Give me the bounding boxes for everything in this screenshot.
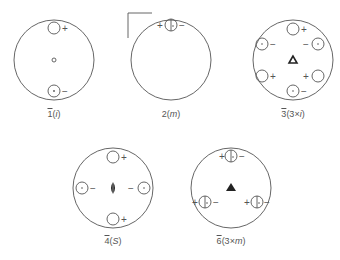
svg-text:−: −: [90, 183, 96, 194]
svg-text:−: −: [179, 20, 185, 31]
svg-text:+: +: [121, 152, 127, 163]
svg-text:+: +: [219, 151, 225, 162]
projection-circle-1bar: [14, 20, 94, 100]
open-triangle-icon: [289, 56, 297, 63]
inversion-center-icon: [52, 58, 56, 62]
svg-text:+: +: [121, 214, 127, 225]
filled-triangle-icon: [226, 183, 236, 191]
svg-text:+: +: [303, 71, 309, 82]
svg-text:−: −: [239, 151, 245, 162]
svg-text:+: +: [192, 197, 198, 208]
label-6bar: 6(3×m): [191, 236, 271, 246]
svg-text:+: +: [62, 23, 68, 34]
svg-text:−: −: [303, 39, 309, 50]
svg-text:−: −: [128, 183, 134, 194]
pole-plus-open: [48, 22, 60, 34]
label-4bar: 4(S): [73, 236, 153, 246]
svg-text:−: −: [62, 86, 68, 97]
stereogram-figure: + − + − + − − + + − + + − − + − + − + −: [0, 0, 340, 260]
label-3bar: 3(3×i): [253, 109, 333, 119]
svg-text:−: −: [270, 39, 276, 50]
svg-text:+: +: [244, 197, 250, 208]
svg-text:−: −: [213, 197, 219, 208]
svg-text:+: +: [157, 20, 163, 31]
svg-text:+: +: [270, 71, 276, 82]
label-1bar: 1(i): [14, 109, 94, 119]
svg-text:−: −: [264, 197, 270, 208]
svg-text:−: −: [301, 86, 307, 97]
svg-text:+: +: [301, 24, 307, 35]
projection-circle-2bar: [131, 20, 211, 100]
label-2bar: 2(m): [131, 109, 211, 119]
projection-circle-3bar: [253, 20, 333, 100]
